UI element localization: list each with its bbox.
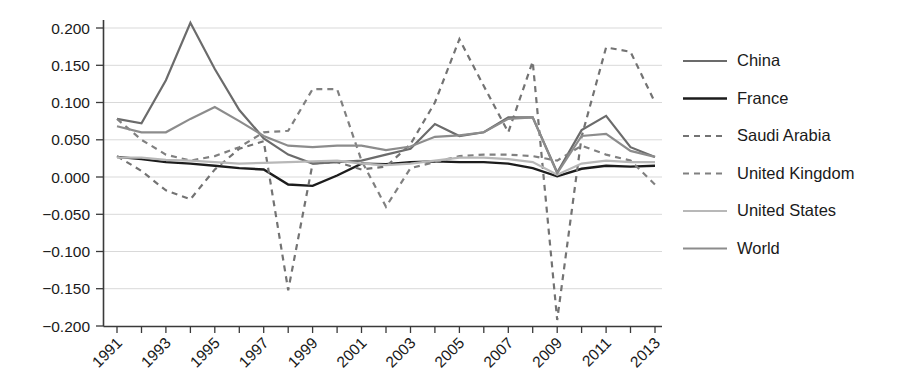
legend-label-saudi-arabia: Saudi Arabia [737,126,831,144]
series-line-saudi-arabia [117,39,655,320]
y-tick-label: 0.050 [51,131,90,148]
x-tick-label: 2003 [382,334,418,370]
x-tick-label: 1991 [89,334,125,370]
x-tick-label: 1995 [187,334,223,370]
y-tick-label: −0.200 [42,318,90,335]
x-axis-labels: 1991199319951997199920012003200520072009… [89,334,663,370]
y-tick-label: 0.200 [51,20,90,37]
chart-figure: 0.2000.1500.1000.0500.000−0.050−0.100−0.… [0,0,921,389]
y-tick-label: −0.050 [42,206,90,223]
x-tick-label: 1993 [138,334,174,370]
x-tick-label: 2005 [431,334,467,370]
x-tick-label: 1997 [235,334,271,370]
line-chart: 0.2000.1500.1000.0500.000−0.050−0.100−0.… [0,0,921,389]
y-tick-label: 0.000 [51,169,90,186]
y-tick-label: 0.100 [51,94,90,111]
chart-legend: ChinaFranceSaudi ArabiaUnited KingdomUni… [683,51,854,257]
x-tick-label: 2009 [529,334,565,370]
y-tick-label: −0.150 [42,280,90,297]
y-tick-label: 0.150 [51,57,90,74]
legend-label-united-states: United States [737,201,836,219]
legend-label-france: France [737,89,788,107]
x-tick-label: 2011 [579,334,615,370]
data-series [117,23,655,320]
axes [104,20,663,327]
x-tick-label: 2013 [627,334,663,370]
legend-label-china: China [737,51,781,69]
legend-label-united-kingdom: United Kingdom [737,164,854,182]
y-axis-labels: 0.2000.1500.1000.0500.000−0.050−0.100−0.… [42,20,90,335]
x-tick-label: 2007 [480,334,516,370]
x-tick-label: 2001 [333,334,369,370]
y-tick-label: −0.100 [42,243,90,260]
legend-label-world: World [737,239,780,257]
x-tick-label: 1999 [284,334,320,370]
